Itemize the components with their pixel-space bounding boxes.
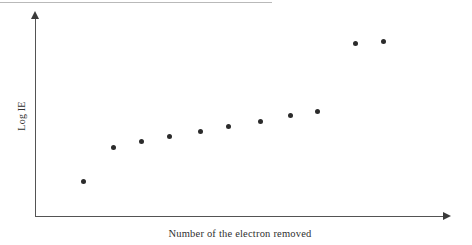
data-point bbox=[81, 179, 86, 184]
y-axis-label: Log IE bbox=[16, 101, 27, 130]
horizontal-axis bbox=[35, 216, 445, 217]
y-axis-arrow-icon bbox=[31, 11, 39, 19]
plot-area: Log IE Number of the electron removed bbox=[0, 0, 472, 245]
ionization-energy-scatter-figure: Log IE Number of the electron removed bbox=[0, 0, 472, 245]
data-point bbox=[139, 139, 144, 144]
vertical-axis bbox=[35, 18, 36, 216]
data-point bbox=[167, 134, 172, 139]
data-point bbox=[226, 124, 231, 129]
x-axis-label: Number of the electron removed bbox=[168, 228, 311, 239]
data-point bbox=[315, 109, 320, 114]
x-axis-arrow-icon bbox=[443, 212, 451, 220]
data-point bbox=[381, 39, 386, 44]
data-point bbox=[353, 41, 358, 46]
data-point bbox=[258, 119, 263, 124]
data-point bbox=[111, 145, 116, 150]
data-point bbox=[198, 129, 203, 134]
data-point bbox=[288, 113, 293, 118]
